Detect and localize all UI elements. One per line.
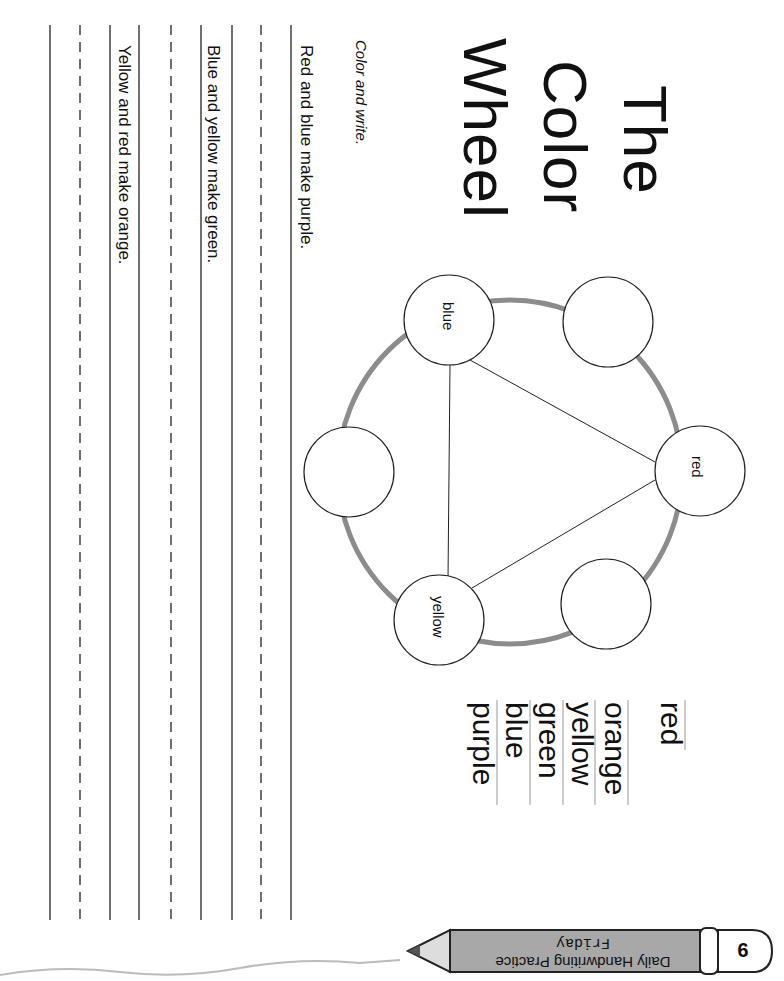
footer-series: Daily Handwriting Practice [468, 954, 698, 971]
footer-day: Friday [468, 934, 698, 951]
torn-edge [0, 960, 400, 975]
page-number: 9 [728, 938, 758, 961]
pencil-ferrule [700, 928, 718, 974]
footer-pencil [0, 0, 784, 981]
